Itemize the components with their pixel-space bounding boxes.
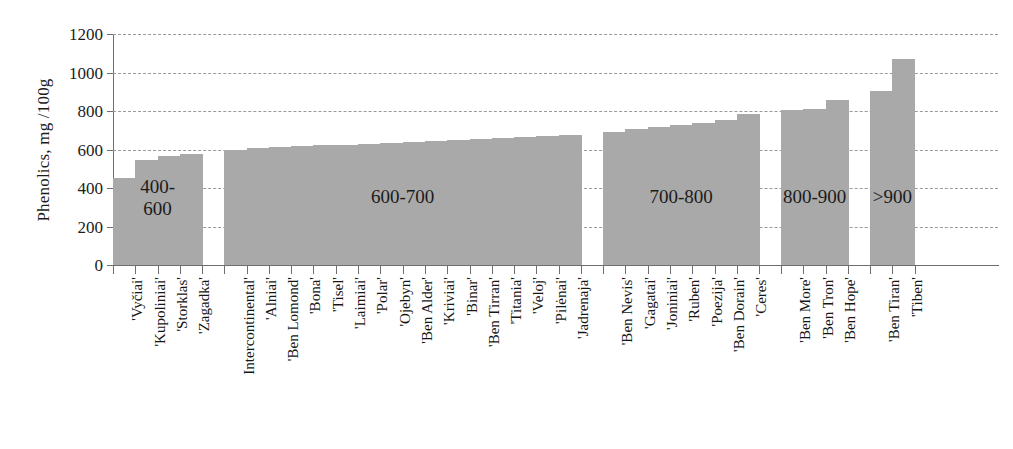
x-tick — [848, 266, 849, 274]
x-tick — [536, 266, 537, 274]
bar[interactable] — [158, 156, 181, 265]
x-axis-label: 'Ruben' — [687, 277, 702, 322]
x-tick — [113, 266, 114, 274]
x-tick — [470, 266, 471, 274]
x-tick — [358, 266, 359, 274]
x-axis-label: 'Gagatai' — [643, 277, 658, 329]
x-tick — [648, 266, 649, 274]
x-tick — [180, 266, 181, 274]
bar[interactable] — [380, 143, 403, 265]
x-tick — [202, 266, 203, 274]
x-axis-label: 'Binar' — [465, 277, 480, 316]
x-axis-label: 'Kriviai' — [442, 277, 457, 325]
bar[interactable] — [492, 138, 515, 265]
x-axis-label: 'Kupoliniai' — [153, 277, 168, 347]
bar[interactable] — [313, 145, 336, 265]
bar[interactable] — [781, 110, 804, 265]
y-tick-label-1000: 1000 — [51, 65, 103, 82]
x-tick — [625, 266, 626, 274]
bar[interactable] — [715, 120, 738, 265]
x-axis-label: 'Ojebyn' — [398, 277, 413, 327]
bar[interactable] — [559, 135, 582, 265]
x-axis-label: 'Ben Hope' — [843, 277, 858, 343]
x-axis-label: 'Ben Tirran' — [487, 277, 502, 347]
x-axis-label: Intercontinental' — [242, 277, 257, 375]
gridline-1000 — [113, 73, 998, 74]
x-tick — [135, 266, 136, 274]
bar[interactable] — [425, 141, 448, 265]
bar[interactable] — [737, 114, 760, 265]
x-tick — [870, 266, 871, 274]
x-axis-label: 'Bona' — [308, 277, 323, 314]
x-axis-label: 'Tiben' — [910, 277, 925, 317]
bar[interactable] — [892, 59, 915, 265]
x-tick — [692, 266, 693, 274]
y-tick-label-600: 600 — [51, 142, 103, 159]
bar[interactable] — [514, 137, 537, 265]
x-tick — [425, 266, 426, 274]
bar[interactable] — [447, 140, 470, 265]
bar[interactable] — [403, 142, 426, 265]
x-tick — [603, 266, 604, 274]
x-axis-label: 'Ceres' — [754, 277, 769, 317]
x-tick — [313, 266, 314, 274]
bar[interactable] — [470, 139, 493, 265]
bar[interactable] — [803, 109, 826, 265]
x-axis-label: 'Tisel' — [331, 277, 346, 312]
x-tick — [158, 266, 159, 274]
bar[interactable] — [291, 146, 314, 265]
bar[interactable] — [358, 144, 381, 265]
x-tick — [492, 266, 493, 274]
x-axis-label: 'Ben Lomond' — [286, 277, 301, 361]
y-tick-label-800: 800 — [51, 103, 103, 120]
y-tick-label-1200: 1200 — [51, 26, 103, 43]
x-tick — [915, 266, 916, 274]
x-tick — [403, 266, 404, 274]
bar[interactable] — [692, 123, 715, 265]
x-tick — [224, 266, 225, 274]
bar[interactable] — [180, 154, 203, 265]
x-axis-label: 'Jadrenaja' — [576, 277, 591, 339]
bar[interactable] — [247, 148, 270, 265]
gridline-800 — [113, 111, 998, 112]
x-tick — [892, 266, 893, 274]
bar[interactable] — [135, 160, 158, 265]
x-axis-label: 'Titania' — [509, 277, 524, 324]
phenolics-bar-chart: Phenolics, mg /100g 12001000800600400200… — [0, 0, 1013, 449]
x-axis-label: 'Alniai' — [264, 277, 279, 320]
x-axis-label: 'Storklas' — [175, 277, 190, 332]
x-tick — [737, 266, 738, 274]
bar[interactable] — [670, 125, 693, 265]
x-axis-label: 'Poezija' — [710, 277, 725, 327]
x-tick — [559, 266, 560, 274]
bar[interactable] — [648, 127, 671, 265]
x-axis-label: 'Zagadka' — [197, 277, 212, 334]
y-tick-label-0: 0 — [51, 257, 103, 274]
gridline-1200 — [113, 34, 998, 35]
bar[interactable] — [625, 129, 648, 265]
y-tick-label-200: 200 — [51, 219, 103, 236]
bar[interactable] — [113, 178, 136, 265]
x-tick — [447, 266, 448, 274]
x-tick — [581, 266, 582, 274]
y-tick-label-400: 400 — [51, 180, 103, 197]
x-axis-label: 'Ben More' — [798, 277, 813, 343]
x-tick — [247, 266, 248, 274]
x-tick — [803, 266, 804, 274]
x-tick — [269, 266, 270, 274]
x-axis-label: 'Veloj' — [531, 277, 546, 314]
x-tick — [781, 266, 782, 274]
bar[interactable] — [269, 147, 292, 265]
bar[interactable] — [336, 145, 359, 265]
x-axis-label: 'Pilėnai' — [554, 277, 569, 324]
x-axis-label: 'Vyčiai' — [130, 277, 145, 321]
bar[interactable] — [536, 136, 559, 265]
x-tick — [759, 266, 760, 274]
x-axis-label: 'Laimiai' — [353, 277, 368, 329]
x-tick — [380, 266, 381, 274]
x-axis-label: 'Ben Dorain' — [732, 277, 747, 352]
bar[interactable] — [870, 91, 893, 265]
bar[interactable] — [603, 132, 626, 265]
bar[interactable] — [224, 150, 247, 265]
bar[interactable] — [826, 100, 849, 265]
